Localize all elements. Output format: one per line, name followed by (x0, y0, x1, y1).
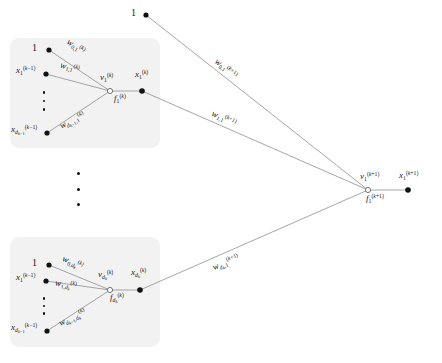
node-input-xd-first-unit (44, 130, 49, 135)
node-preactivation-next-layer (365, 187, 370, 192)
output-label-last-unit: xdk(k) (131, 268, 146, 277)
edge-x1k-to-vnext (142, 91, 368, 190)
node-preactivation-first-unit (107, 88, 112, 93)
node-input-x1-first-unit (43, 71, 48, 76)
activation-label-next-layer: f1(k+1) (366, 194, 384, 203)
input-xd-label-last-unit: xdk−1(k−1) (11, 323, 37, 332)
output-label-first-unit: x1(k) (135, 70, 148, 79)
ellipsis-between-units (76, 172, 80, 206)
diagram-graphics (0, 0, 442, 363)
activation-label-last-unit: fdk(k) (110, 293, 124, 302)
figure-canvas: 1 1 x1(k−1) xdk−1(k−1) w0,1(k) w1,1(k) w… (0, 0, 442, 363)
bias-label-last-unit: 1 (32, 258, 37, 268)
bias-top-label: 1 (131, 8, 136, 18)
ellipsis-inside-first-unit (42, 91, 46, 111)
preactivation-label-last-unit: vdk(k) (98, 270, 113, 279)
bias-label-first-unit: 1 (32, 43, 37, 53)
ellipsis-inside-last-unit (42, 297, 46, 315)
node-bias-last-unit (46, 262, 51, 267)
node-output-last-unit (137, 287, 143, 293)
input-x1-label-first-unit: x1(k−1) (16, 66, 35, 75)
node-output-next-layer (405, 187, 411, 193)
node-input-xd-last-unit (44, 328, 49, 333)
node-bias-next-layer (143, 12, 148, 17)
node-output-first-unit (139, 88, 145, 94)
node-bias-first-unit (46, 47, 51, 52)
node-input-x1-last-unit (43, 278, 48, 283)
preactivation-label-first-unit: v1(k) (100, 73, 113, 82)
edge-xdk-to-vnext (140, 190, 368, 290)
activation-label-first-unit: f1(k) (114, 94, 126, 103)
preactivation-label-next-layer: v1(k+1) (360, 172, 379, 181)
output-label-next-layer: x1(k+1) (399, 171, 418, 180)
input-x1-label-last-unit: x1(k−1) (16, 273, 35, 282)
edge-topbias-to-vnext (146, 15, 368, 190)
input-xd-label-first-unit: xdk−1(k−1) (11, 125, 37, 134)
